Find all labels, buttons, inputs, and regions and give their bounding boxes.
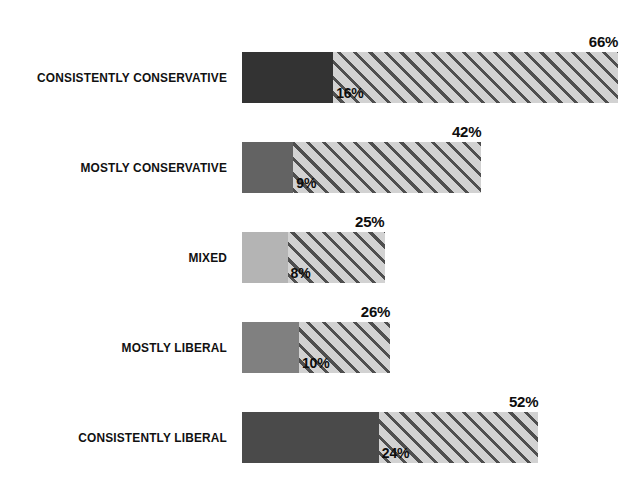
- category-label: CONSISTENTLY LIBERAL: [27, 412, 227, 463]
- bar-inner-value-label: 24%: [379, 445, 409, 461]
- bar-row: MIXED8%25%: [0, 180, 643, 270]
- bar-total-value-label: 52%: [509, 393, 538, 410]
- bar-row: MOSTLY LIBERAL10%26%: [0, 270, 643, 360]
- bar-row: MOSTLY CONSERVATIVE9%42%: [0, 90, 643, 180]
- bar-total-value-label: 42%: [452, 123, 481, 140]
- stacked-bar-chart: CONSISTENTLY CONSERVATIVE16%66%MOSTLY CO…: [0, 0, 643, 500]
- bar-row: CONSISTENTLY CONSERVATIVE16%66%: [0, 0, 643, 90]
- bar-segment-solid: [242, 412, 379, 463]
- bar-row: CONSISTENTLY LIBERAL24%52%: [0, 360, 643, 450]
- bar-total-value-label: 25%: [355, 213, 384, 230]
- bar-track: 24%52%: [242, 412, 538, 463]
- bar-total-value-label: 26%: [361, 303, 390, 320]
- bar-total-value-label: 66%: [589, 33, 618, 50]
